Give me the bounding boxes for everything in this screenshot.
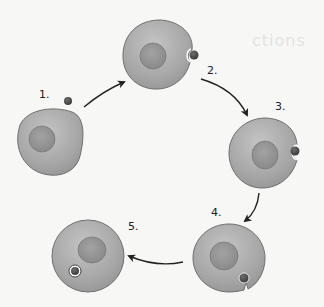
cell-step-1: 1. (18, 88, 83, 175)
endocytosis-diagram: 1. 2. 3. 4. 5. (0, 0, 324, 307)
step-label-4: 4. (211, 206, 222, 219)
step-label-5: 5. (128, 220, 139, 233)
cell-step-3: 3. (229, 100, 300, 188)
arrow-1-to-2 (84, 82, 124, 107)
nucleus (29, 126, 55, 152)
cell-step-2: 2. (123, 20, 218, 89)
step-label-1: 1. (39, 88, 50, 101)
particle (239, 273, 249, 283)
step-label-3: 3. (275, 100, 286, 113)
cell-step-5: 5. (52, 220, 139, 292)
nucleus (252, 141, 278, 169)
arrow-4-to-5 (129, 256, 183, 264)
nucleus (210, 242, 238, 270)
particle (190, 51, 199, 60)
nucleus (78, 237, 106, 263)
arrow-2-to-3 (201, 79, 247, 115)
nucleus (140, 43, 166, 69)
step-label-2: 2. (207, 64, 218, 77)
cell-step-4: 4. (193, 206, 265, 292)
arrow-3-to-4 (245, 193, 259, 221)
particle (64, 97, 72, 105)
particle (71, 267, 79, 275)
particle (291, 147, 300, 156)
